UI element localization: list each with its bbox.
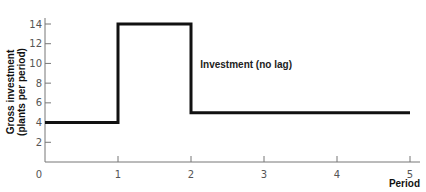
- y-tick-label: 14: [29, 19, 42, 30]
- y-tick-label: 12: [29, 38, 42, 49]
- y-tick-label: 6: [36, 97, 42, 108]
- x-tick-label: 4: [334, 169, 340, 180]
- x-tick-label: 1: [115, 169, 121, 180]
- y-axis-title-line1: Gross investment: [5, 49, 16, 134]
- x-ticks: 012345: [36, 156, 413, 180]
- x-tick-label: 0: [36, 169, 42, 180]
- investment-step-chart: Gross investment (plants per period) 246…: [0, 0, 426, 192]
- y-tick-label: 8: [36, 78, 42, 89]
- y-tick-label: 2: [36, 137, 42, 148]
- y-ticks: 2468101214: [29, 19, 51, 148]
- x-tick-label: 3: [261, 169, 267, 180]
- y-tick-label: 10: [29, 58, 42, 69]
- series-investment-no-lag: [45, 24, 410, 123]
- series-annotation-label: Investment (no lag): [200, 59, 292, 70]
- y-tick-label: 4: [36, 117, 42, 128]
- x-axis-title: Period: [389, 178, 420, 189]
- y-axis-title: Gross investment (plants per period): [5, 48, 27, 136]
- y-axis-title-line2: (plants per period): [16, 48, 27, 136]
- x-tick-label: 2: [188, 169, 194, 180]
